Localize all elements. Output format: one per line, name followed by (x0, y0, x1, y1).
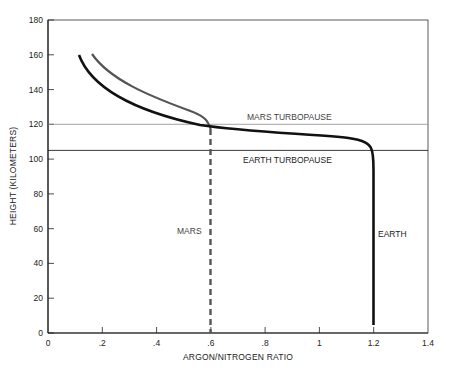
x-tick-label: 1.4 (422, 338, 434, 348)
x-axis-title: ARGON/NITROGEN RATIO (183, 352, 293, 362)
y-tick-label: 60 (34, 224, 44, 234)
x-ticks (102, 327, 373, 333)
x-tick-label: .6 (207, 338, 214, 348)
mars-turbopause-label: MARS TURBOPAUSE (247, 112, 332, 122)
y-axis-title: HEIGHT (KILOMETERS) (8, 127, 18, 226)
mars-label: MARS (177, 226, 202, 236)
x-tick-label: .8 (262, 338, 269, 348)
y-tick-label: 140 (29, 85, 43, 95)
x-tick-label: 1.2 (368, 338, 380, 348)
x-tick-label: 1 (317, 338, 322, 348)
y-tick-label: 80 (34, 189, 44, 199)
x-tick-label: .2 (99, 338, 106, 348)
x-tick-label: .4 (153, 338, 160, 348)
y-tick-label: 180 (29, 15, 43, 25)
y-ticks (48, 20, 54, 333)
x-tick-label: 0 (46, 338, 51, 348)
y-tick-label: 100 (29, 154, 43, 164)
y-tick-labels: 0 20 40 60 80 100 120 140 160 180 (29, 15, 43, 338)
chart: 0 20 40 60 80 100 120 140 160 180 0 .2 .… (0, 0, 449, 371)
y-tick-label: 20 (34, 293, 44, 303)
y-tick-label: 0 (38, 328, 43, 338)
y-tick-label: 160 (29, 50, 43, 60)
y-tick-label: 120 (29, 119, 43, 129)
earth-curve (79, 55, 374, 325)
y-tick-label: 40 (34, 258, 44, 268)
earth-label: EARTH (378, 229, 407, 239)
x-tick-labels: 0 .2 .4 .6 .8 1 1.2 1.4 (46, 338, 435, 348)
earth-turbopause-label: EARTH TURBOPAUSE (243, 155, 332, 165)
